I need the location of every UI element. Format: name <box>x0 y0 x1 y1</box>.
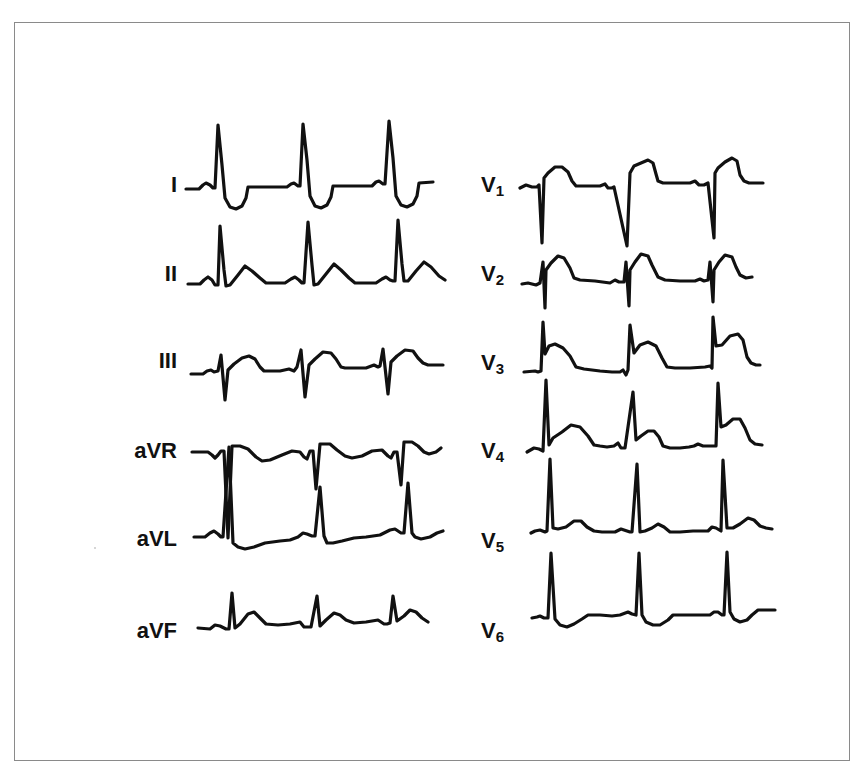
trace-V6 <box>532 552 775 627</box>
trace-II <box>188 220 445 286</box>
trace-aVF <box>198 593 428 629</box>
trace-III <box>191 349 443 400</box>
ecg-traces <box>0 0 864 779</box>
trace-V4 <box>527 380 762 452</box>
trace-V5 <box>531 459 772 533</box>
trace-V3 <box>524 317 760 375</box>
trace-V2 <box>522 254 752 308</box>
trace-I <box>186 121 433 209</box>
trace-V1 <box>520 158 763 246</box>
